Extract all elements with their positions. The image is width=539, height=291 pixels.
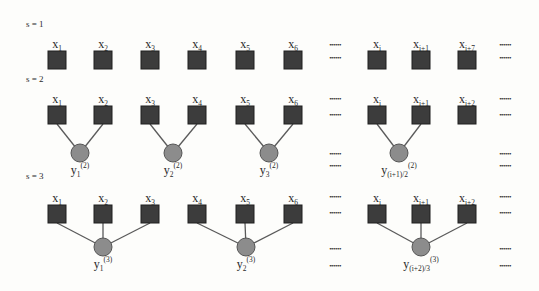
aggregate-node-circle — [94, 238, 112, 256]
ellipsis-dots: •••••• — [499, 150, 512, 158]
input-node-square — [141, 106, 159, 124]
input-node-square — [412, 106, 430, 124]
input-node-square — [412, 205, 430, 223]
input-node-square — [458, 205, 476, 223]
ellipsis-dots: •••••• — [329, 54, 342, 62]
ellipsis-dots: •••••• — [499, 111, 512, 119]
input-node-label: x1 — [52, 37, 62, 53]
ellipsis-dots: •••••• — [499, 209, 512, 217]
input-node-label: xi+2 — [459, 92, 475, 108]
ellipsis-dots: •••••• — [329, 162, 342, 170]
input-node-label: x3 — [145, 191, 155, 207]
ellipsis-dots: •••••• — [329, 95, 342, 103]
input-node-label: xi — [373, 191, 381, 207]
scale-row-1: s = 1x1x2x3x4x5x6xixi+1xi+7•••••••••••••… — [26, 19, 512, 69]
ellipsis-dots: •••••• — [499, 162, 512, 170]
input-node-square — [48, 205, 66, 223]
ellipsis-dots: •••••• — [329, 209, 342, 217]
input-node-label: x2 — [98, 191, 108, 207]
input-node-label: x5 — [240, 37, 250, 53]
input-node-label: x4 — [192, 191, 202, 207]
ellipsis-dots: •••••• — [329, 245, 342, 253]
aggregate-node-label: y(i+1)/2(2) — [381, 161, 417, 179]
ellipsis-dots: •••••• — [499, 95, 512, 103]
input-node-label: xi+2 — [459, 191, 475, 207]
input-node-label: x1 — [52, 92, 62, 108]
input-node-label: x3 — [145, 92, 155, 108]
input-node-label: xi — [373, 37, 381, 53]
scale-row-2: s = 2x1x2x3x4x5x6xixi+1xi+2y1(2)y2(2)y3(… — [26, 74, 512, 179]
input-node-square — [188, 205, 206, 223]
input-node-square — [284, 51, 302, 69]
input-node-label: x4 — [192, 37, 202, 53]
ellipsis-dots: •••••• — [499, 41, 512, 49]
input-node-square — [458, 51, 476, 69]
input-node-label: xi+1 — [413, 37, 429, 53]
scale-label: s = 1 — [26, 19, 44, 29]
input-node-square — [368, 205, 386, 223]
input-node-label: x6 — [288, 92, 298, 108]
input-node-label: xi+7 — [459, 37, 475, 53]
multiscale-aggregation-diagram: s = 1x1x2x3x4x5x6xixi+1xi+7•••••••••••••… — [0, 0, 539, 291]
ellipsis-dots: •••••• — [329, 41, 342, 49]
input-node-square — [48, 51, 66, 69]
input-node-square — [368, 51, 386, 69]
input-node-square — [48, 106, 66, 124]
input-node-label: x1 — [52, 191, 62, 207]
input-node-label: x2 — [98, 37, 108, 53]
scale-label: s = 3 — [26, 171, 44, 181]
input-node-label: x2 — [98, 92, 108, 108]
scale-label: s = 2 — [26, 74, 44, 84]
aggregate-node-label: y2(2) — [164, 161, 183, 179]
input-node-square — [94, 205, 112, 223]
input-node-square — [141, 51, 159, 69]
input-node-square — [236, 106, 254, 124]
scale-row-3: s = 3x1x2x3x4x5x6xixi+1xi+2y1(3)y2(3)y(i… — [26, 171, 512, 273]
input-node-square — [368, 106, 386, 124]
input-node-square — [284, 106, 302, 124]
input-node-square — [236, 51, 254, 69]
input-node-label: xi — [373, 92, 381, 108]
input-node-square — [284, 205, 302, 223]
aggregate-node-circle — [390, 144, 408, 162]
aggregate-node-circle — [71, 144, 89, 162]
aggregate-node-circle — [237, 238, 255, 256]
input-node-square — [458, 106, 476, 124]
input-node-label: x3 — [145, 37, 155, 53]
ellipsis-dots: •••••• — [329, 111, 342, 119]
aggregate-node-label: y1(3) — [94, 255, 113, 273]
input-node-label: x5 — [240, 92, 250, 108]
input-node-label: xi+1 — [413, 92, 429, 108]
input-node-square — [188, 106, 206, 124]
input-node-square — [141, 205, 159, 223]
input-node-label: x6 — [288, 37, 298, 53]
input-node-label: x5 — [240, 191, 250, 207]
ellipsis-dots: •••••• — [329, 262, 342, 270]
ellipsis-dots: •••••• — [329, 150, 342, 158]
input-node-square — [188, 51, 206, 69]
input-node-square — [412, 51, 430, 69]
input-node-square — [94, 51, 112, 69]
aggregate-node-label: y3(2) — [260, 161, 279, 179]
aggregate-node-circle — [260, 144, 278, 162]
input-node-square — [94, 106, 112, 124]
input-node-label: xi+1 — [413, 191, 429, 207]
input-node-label: x4 — [192, 92, 202, 108]
ellipsis-dots: •••••• — [499, 193, 512, 201]
ellipsis-dots: •••••• — [499, 54, 512, 62]
aggregate-node-circle — [412, 238, 430, 256]
aggregate-node-label: y1(2) — [71, 161, 90, 179]
input-node-label: x6 — [288, 191, 298, 207]
aggregate-node-label: y2(3) — [237, 255, 256, 273]
ellipsis-dots: •••••• — [329, 193, 342, 201]
aggregate-node-label: y(i+2)/3(3) — [403, 255, 439, 273]
ellipsis-dots: •••••• — [499, 262, 512, 270]
ellipsis-dots: •••••• — [499, 245, 512, 253]
aggregate-node-circle — [164, 144, 182, 162]
input-node-square — [236, 205, 254, 223]
